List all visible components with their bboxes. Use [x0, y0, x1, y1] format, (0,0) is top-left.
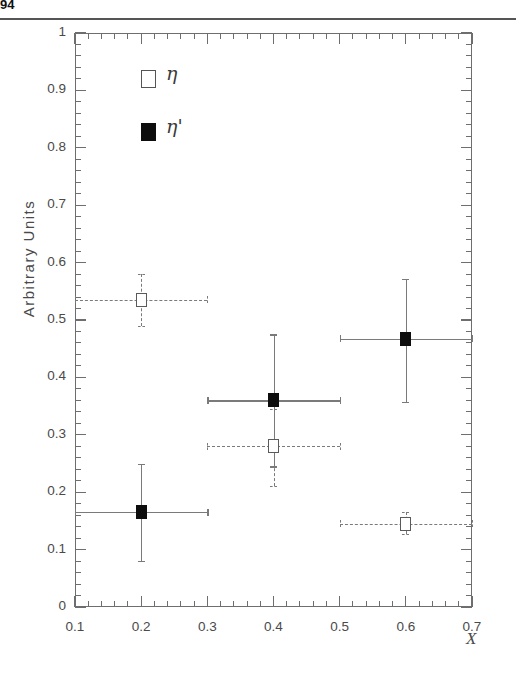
x-minor-tick: [379, 601, 380, 607]
y-minor-tick: [466, 423, 472, 424]
x-tick-label: 0.5: [310, 619, 370, 634]
x-minor-tick: [114, 601, 115, 607]
y-minor-tick: [466, 101, 472, 102]
x-error-cap: [75, 296, 76, 303]
y-major-tick: [75, 205, 86, 206]
x-minor-tick: [392, 33, 393, 39]
y-minor-tick: [75, 561, 81, 562]
data-point-eta: [400, 517, 411, 531]
y-major-tick: [75, 262, 86, 263]
x-minor-tick: [419, 33, 420, 39]
x-minor-tick: [352, 601, 353, 607]
y-minor-tick: [466, 388, 472, 389]
y-minor-tick: [466, 136, 472, 137]
plot-frame: [75, 33, 472, 607]
x-minor-tick: [167, 601, 168, 607]
y-minor-tick: [466, 342, 472, 343]
x-major-tick: [405, 596, 406, 607]
y-minor-tick: [75, 274, 81, 275]
x-minor-tick: [432, 33, 433, 39]
y-minor-tick: [75, 503, 81, 504]
y-minor-tick: [466, 55, 472, 56]
y-minor-tick: [466, 457, 472, 458]
y-minor-tick: [75, 469, 81, 470]
y-error-cap: [402, 534, 409, 535]
x-minor-tick: [299, 33, 300, 39]
y-minor-tick: [466, 67, 472, 68]
y-minor-tick: [466, 182, 472, 183]
y-minor-tick: [75, 182, 81, 183]
y-minor-tick: [466, 239, 472, 240]
y-major-tick: [461, 32, 472, 33]
y-minor-tick: [466, 170, 472, 171]
x-tick-label: 0.3: [177, 619, 237, 634]
legend-label-eta-prime: η': [166, 115, 183, 137]
y-error-cap: [270, 334, 277, 335]
y-minor-tick: [466, 561, 472, 562]
x-minor-tick: [286, 33, 287, 39]
y-tick-label: 0.9: [4, 81, 66, 96]
y-minor-tick: [466, 159, 472, 160]
x-tick-label: 0.7: [442, 619, 502, 634]
x-error-cap: [472, 335, 473, 342]
x-major-tick: [74, 596, 75, 607]
y-minor-tick: [75, 101, 81, 102]
x-error-cap: [340, 397, 341, 404]
x-minor-tick: [299, 601, 300, 607]
y-major-tick: [75, 434, 86, 435]
y-minor-tick: [466, 308, 472, 309]
x-tick-label: 0.1: [45, 619, 105, 634]
y-error-cap: [270, 486, 277, 487]
x-major-tick: [405, 33, 406, 44]
y-minor-tick: [75, 411, 81, 412]
x-minor-tick: [313, 33, 314, 39]
y-minor-tick: [466, 216, 472, 217]
y-minor-tick: [466, 297, 472, 298]
y-minor-tick: [75, 365, 81, 366]
x-error-cap: [207, 509, 208, 516]
y-tick-label: 0.8: [4, 139, 66, 154]
y-minor-tick: [75, 400, 81, 401]
data-point-eta-prime: [136, 505, 147, 519]
y-minor-tick: [466, 44, 472, 45]
y-minor-tick: [75, 308, 81, 309]
x-minor-tick: [101, 601, 102, 607]
y-minor-tick: [75, 113, 81, 114]
y-minor-tick: [75, 67, 81, 68]
y-error-cap: [138, 561, 145, 562]
x-error-cap: [207, 443, 208, 450]
y-minor-tick: [75, 457, 81, 458]
x-major-tick: [471, 33, 472, 44]
y-minor-tick: [466, 469, 472, 470]
x-minor-tick: [392, 601, 393, 607]
x-minor-tick: [247, 33, 248, 39]
y-minor-tick: [75, 193, 81, 194]
y-error-cap: [138, 326, 145, 327]
x-tick-label: 0.2: [111, 619, 171, 634]
y-major-tick: [461, 549, 472, 550]
x-minor-tick: [366, 601, 367, 607]
x-error-cap: [340, 335, 341, 342]
y-minor-tick: [466, 285, 472, 286]
y-minor-tick: [466, 251, 472, 252]
y-major-tick: [75, 319, 86, 320]
y-minor-tick: [75, 285, 81, 286]
y-minor-tick: [75, 251, 81, 252]
scatter-plot: Arbitrary Units X 00.10.20.30.40.50.60.7…: [0, 0, 516, 684]
y-minor-tick: [466, 124, 472, 125]
x-minor-tick: [233, 33, 234, 39]
y-minor-tick: [466, 274, 472, 275]
y-minor-tick: [466, 446, 472, 447]
y-error-cap: [138, 464, 145, 465]
x-minor-tick: [154, 601, 155, 607]
x-major-tick: [471, 596, 472, 607]
y-minor-tick: [75, 78, 81, 79]
y-minor-tick: [75, 572, 81, 573]
y-minor-tick: [75, 538, 81, 539]
y-major-tick: [461, 90, 472, 91]
y-major-tick: [461, 377, 472, 378]
x-minor-tick: [127, 33, 128, 39]
y-minor-tick: [75, 354, 81, 355]
legend-label-eta: η: [166, 62, 177, 84]
y-minor-tick: [75, 595, 81, 596]
